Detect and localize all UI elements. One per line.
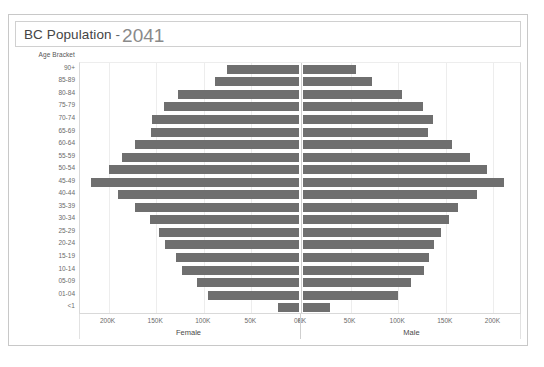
bar-female[interactable] (278, 303, 299, 312)
bar-female[interactable] (135, 140, 299, 149)
y-axis-tick-label: 80-84 (58, 90, 75, 97)
y-axis-tick-label: 40-44 (58, 190, 75, 197)
y-axis-tick-label: 70-74 (58, 115, 75, 122)
x-axis-divider (300, 314, 301, 339)
bar-male[interactable] (303, 266, 424, 275)
y-axis-labels: 90+85-8980-8475-7970-7465-6960-6455-5950… (15, 62, 79, 313)
x-axis-title-male: Male (403, 328, 419, 337)
y-axis-tick-label: 01-04 (58, 291, 75, 298)
plot-area (79, 62, 521, 313)
panel-divider (301, 63, 302, 313)
bar-female[interactable] (118, 190, 299, 199)
x-axis: 0K0K50K50K100K100K150K150K200K200KFemale… (79, 313, 521, 339)
page-title: BC Population (24, 27, 112, 42)
bar-female[interactable] (208, 291, 299, 300)
y-axis-tick-label: 55-59 (58, 153, 75, 160)
bar-male[interactable] (303, 140, 452, 149)
y-axis-tick-label: 20-24 (58, 240, 75, 247)
bar-male[interactable] (303, 228, 441, 237)
bar-female[interactable] (150, 215, 299, 224)
y-axis-tick-label: 45-49 (58, 178, 75, 185)
y-axis-tick-label: 25-29 (58, 228, 75, 235)
x-axis-title-female: Female (176, 328, 201, 337)
gridline (204, 63, 205, 313)
x-axis-tick-label-male: 150K (437, 317, 452, 324)
bar-male[interactable] (303, 153, 470, 162)
bar-male[interactable] (303, 128, 428, 137)
y-axis-tick-label: 15-19 (58, 253, 75, 260)
gridline (251, 63, 252, 313)
gridline (351, 63, 352, 313)
y-axis-header: Age Bracket (15, 51, 79, 62)
bar-female[interactable] (135, 203, 299, 212)
bar-male[interactable] (303, 215, 449, 224)
bar-female[interactable] (152, 115, 299, 124)
bar-female[interactable] (122, 153, 299, 162)
bar-female[interactable] (227, 65, 299, 74)
gridline (109, 63, 110, 313)
gridline (398, 63, 399, 313)
bar-female[interactable] (91, 178, 299, 187)
x-axis-tick-label-female: 50K (245, 317, 257, 324)
y-axis-tick-label: 30-34 (58, 215, 75, 222)
y-axis-tick-label: 65-69 (58, 128, 75, 135)
y-axis-tick-label: 75-79 (58, 102, 75, 109)
population-pyramid-chart: Age Bracket 90+85-8980-8475-7970-7465-69… (15, 51, 521, 339)
x-axis-tick-label-female: 150K (148, 317, 163, 324)
bar-female[interactable] (197, 278, 299, 287)
y-axis-tick-label: 05-09 (58, 278, 75, 285)
visualization-frame: BC Population - 2041 Age Bracket 90+85-8… (8, 14, 528, 346)
bar-male[interactable] (303, 65, 356, 74)
title-year: 2041 (122, 26, 164, 45)
bar-male[interactable] (303, 240, 434, 249)
bar-male[interactable] (303, 77, 372, 86)
bar-male[interactable] (303, 303, 330, 312)
y-axis-tick-label: 85-89 (58, 77, 75, 84)
x-axis-right-edge (520, 314, 521, 339)
plot-inner (80, 63, 520, 313)
bar-male[interactable] (303, 253, 429, 262)
bar-female[interactable] (165, 240, 299, 249)
bar-male[interactable] (303, 115, 433, 124)
y-axis-tick-label: 60-64 (58, 140, 75, 147)
bar-male[interactable] (303, 203, 458, 212)
bar-female[interactable] (164, 102, 299, 111)
bar-female[interactable] (159, 228, 299, 237)
y-axis-tick-label: 90+ (64, 65, 75, 72)
y-axis-tick-label: <1 (68, 303, 75, 310)
x-axis-tick-label-male: 50K (344, 317, 356, 324)
x-axis-tick-label-female: 100K (195, 317, 210, 324)
x-axis-tick-label-male: 200K (485, 317, 500, 324)
y-axis-tick-label: 10-14 (58, 266, 75, 273)
x-axis-tick-label-male: 100K (390, 317, 405, 324)
bar-male[interactable] (303, 178, 504, 187)
title-separator: - (116, 27, 121, 42)
chart-title-bar[interactable]: BC Population - 2041 (15, 21, 521, 47)
bar-female[interactable] (178, 90, 299, 99)
gridline (446, 63, 447, 313)
gridline (493, 63, 494, 313)
bar-female[interactable] (215, 77, 299, 86)
bar-male[interactable] (303, 102, 423, 111)
bar-female[interactable] (151, 128, 299, 137)
bar-male[interactable] (303, 278, 411, 287)
y-axis-tick-label: 35-39 (58, 203, 75, 210)
gridline (156, 63, 157, 313)
x-axis-tick-label-female: 200K (100, 317, 115, 324)
bar-male[interactable] (303, 190, 477, 199)
y-axis-tick-label: 50-54 (58, 165, 75, 172)
bar-male[interactable] (303, 90, 402, 99)
bar-male[interactable] (303, 165, 487, 174)
bar-female[interactable] (109, 165, 299, 174)
bar-female[interactable] (182, 266, 299, 275)
bar-female[interactable] (176, 253, 299, 262)
x-axis-left-edge (79, 314, 80, 339)
bar-male[interactable] (303, 291, 398, 300)
